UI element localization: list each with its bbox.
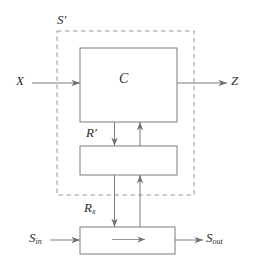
label-stream-out-subscript: out	[213, 237, 223, 246]
register-prime-block	[80, 146, 177, 175]
label-controller-c: C	[119, 72, 128, 86]
label-stream-in-subscript: in	[36, 237, 42, 246]
register-x-block	[80, 227, 175, 254]
label-register-x: Rx	[84, 201, 96, 216]
label-register-x-subscript: x	[92, 207, 96, 216]
label-system-boundary: S′	[57, 13, 66, 26]
label-register-prime: R′	[86, 126, 97, 139]
controller-block	[80, 48, 177, 122]
label-stream-in: Sin	[29, 231, 42, 246]
label-stream-out: Sout	[206, 231, 223, 246]
block-diagram-figure: S′ X C Z R′ Rx Sin Sout	[0, 0, 255, 272]
label-register-x-base: R	[84, 200, 92, 215]
label-input-x: X	[16, 74, 24, 87]
label-output-z: Z	[231, 74, 238, 87]
